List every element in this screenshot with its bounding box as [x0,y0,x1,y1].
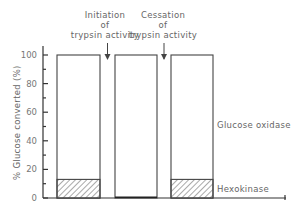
chart: 0 20 40 60 80 100 % Glucose converted (%… [0,0,293,209]
bar-during-trypsin [115,55,157,198]
y-axis: 0 20 40 60 80 100 % Glucose converted (%… [12,46,48,203]
arrow-down-icon [161,43,167,60]
svg-text:of: of [159,20,169,30]
y-tick-0: 0 [32,193,37,203]
arrow-down-icon [105,43,111,60]
svg-text:trypsin activity: trypsin activity [129,30,197,40]
y-tick-80: 80 [26,79,37,89]
y-tick-20: 20 [26,164,37,174]
y-tick-100: 100 [21,50,37,60]
legend-glucose-oxidase: Glucose oxidase [217,120,291,130]
y-tick-60: 60 [26,107,37,117]
svg-text:Initiation: Initiation [85,10,125,20]
y-axis-label: % Glucose converted (%) [12,65,22,180]
legend-hexokinase: Hexokinase [217,184,269,194]
svg-text:of: of [101,20,111,30]
y-tick-40: 40 [26,136,37,146]
bar-before-trypsin [57,55,100,198]
svg-text:Cessation: Cessation [141,10,185,20]
annotation-cessation: Cessation of trypsin activity [129,10,197,60]
bar-after-trypsin [171,55,213,198]
